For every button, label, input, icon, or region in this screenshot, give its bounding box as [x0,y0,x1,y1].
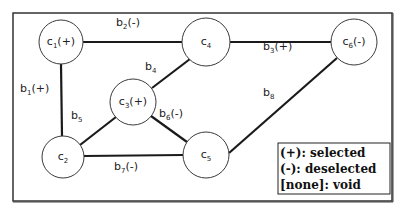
edge-label-b2: b2(-) [116,16,140,31]
legend: (+): selected (-): deselected [none]: vo… [278,143,390,194]
edge-c2-c3 [80,117,116,145]
legend-item-selected: (+): selected [280,146,366,160]
edge-b8 [229,58,337,153]
node-c4: c4 [182,18,230,66]
node-label-c1: c1(+) [47,35,75,50]
node-c2: c2 [42,136,84,178]
edge-label-b3: b3(+) [263,40,292,55]
edge-label-b4: b4 [145,60,157,75]
node-label-c3: c3(+) [119,95,147,110]
edge-label-b6: b6(-) [159,107,183,122]
node-c6: c6(-) [331,19,377,65]
node-label-c6: c6(-) [342,35,365,50]
edge-b4 [152,59,190,88]
graph-diagram: c1(+)c2c3(+)c4c5c6(-) b1(+)b2(-)b3(+)b4b… [0,0,407,214]
legend-item-deselected: (-): deselected [280,162,377,176]
edge-label-b8: b8 [263,86,274,101]
node-c3: c3(+) [110,79,156,125]
edge-b7 [84,155,183,156]
edge-label-b5: b5 [71,109,82,124]
edge-label-b7: b7(-) [114,160,138,175]
edge-label-b1: b1(+) [20,82,49,97]
edge-b1-b5 [61,64,62,136]
node-c5: c5 [183,132,229,178]
legend-item-void: [none]: void [280,178,362,192]
node-c1: c1(+) [39,20,83,64]
